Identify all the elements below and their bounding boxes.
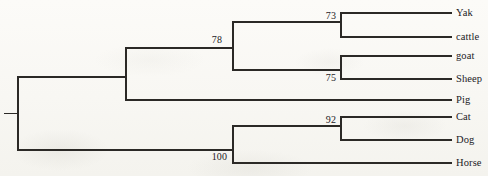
tip-label-pig: Pig — [456, 95, 470, 106]
tip-label-cattle: cattle — [456, 32, 479, 43]
support-value-bovini: 73 — [326, 11, 336, 21]
phylogenetic-tree-figure: Yak cattle goat Sheep Pig Cat Dog Horse … — [0, 0, 488, 176]
tip-label-dog: Dog — [456, 135, 474, 146]
support-value-caprini: 75 — [326, 73, 336, 83]
tip-label-sheep: Sheep — [456, 74, 482, 85]
tip-label-cat: Cat — [456, 112, 471, 123]
tree-branches — [0, 0, 488, 176]
tip-label-horse: Horse — [456, 158, 482, 169]
support-value-artiodactyla: 78 — [212, 35, 222, 45]
support-value-n100: 100 — [212, 152, 227, 162]
tip-label-goat: goat — [456, 51, 474, 62]
tip-label-yak: Yak — [456, 8, 473, 19]
support-value-carnivora: 92 — [326, 115, 336, 125]
